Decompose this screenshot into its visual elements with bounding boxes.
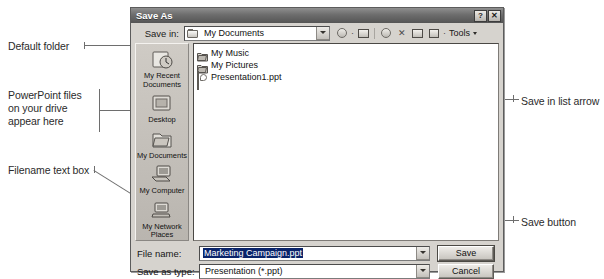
- save-in-row: Save in: My Documents · ✕ · Tools: [131, 23, 503, 43]
- file-name-label: My Music: [211, 48, 249, 58]
- annotation-powerpoint-files: PowerPoint files on your drive appear he…: [8, 89, 82, 128]
- chevron-down-icon[interactable]: [473, 32, 477, 35]
- place-item-my-computer[interactable]: My Computer: [136, 164, 188, 196]
- toolbar-dot-1: ·: [350, 28, 355, 38]
- list-item[interactable]: Presentation1.ppt: [197, 71, 498, 82]
- network-places-icon: [149, 200, 175, 222]
- place-label-network-places: My Network Places: [136, 223, 188, 240]
- my-documents-icon: [149, 129, 175, 151]
- place-item-recent[interactable]: My Recent Documents: [136, 49, 188, 89]
- save-button[interactable]: Save: [438, 246, 494, 261]
- annotation-leader-save-button-h: [505, 220, 519, 221]
- dialog-title-bar[interactable]: Save As ? ✕: [131, 8, 503, 23]
- place-label-my-documents: My Documents: [137, 152, 187, 161]
- list-item[interactable]: My Pictures: [197, 59, 498, 70]
- place-item-desktop[interactable]: Desktop: [136, 93, 188, 125]
- list-item[interactable]: My Music: [197, 47, 498, 58]
- save-in-dropdown[interactable]: My Documents: [184, 26, 330, 41]
- up-one-level-icon[interactable]: [356, 26, 371, 40]
- place-label-desktop: Desktop: [148, 116, 176, 125]
- save-as-type-value: Presentation (*.ppt): [200, 266, 416, 276]
- tools-menu-label[interactable]: Tools: [448, 28, 470, 38]
- recent-documents-icon: [149, 49, 175, 71]
- cancel-button[interactable]: Cancel: [438, 264, 494, 279]
- file-name-row: File name: Marketing Campaign.ppt Save: [135, 244, 499, 262]
- file-list[interactable]: My Music My Pictures Presentation1.ppt: [193, 43, 499, 241]
- save-in-value: My Documents: [201, 28, 316, 38]
- save-as-dialog: Save As ? ✕ Save in: My Documents · ✕ · …: [130, 7, 504, 272]
- save-as-type-row: Save as type: Presentation (*.ppt) Cance…: [135, 262, 499, 279]
- toolbar-separator-1: [374, 28, 375, 39]
- places-bar: My Recent Documents Desktop My Documents…: [135, 43, 189, 241]
- save-as-type-dropdown[interactable]: Presentation (*.ppt): [199, 264, 430, 279]
- annotation-filename-text-box: Filename text box: [8, 164, 89, 177]
- file-name-label-static: File name:: [135, 248, 199, 259]
- annotation-leader-save-in-arrow-h: [505, 99, 519, 100]
- toolbar-dot-2: ·: [442, 28, 447, 38]
- file-name-value: Marketing Campaign.ppt: [203, 248, 303, 258]
- place-item-my-documents[interactable]: My Documents: [136, 129, 188, 161]
- dialog-toolbar: · ✕ · Tools: [334, 26, 477, 40]
- place-label-recent: My Recent Documents: [136, 72, 188, 89]
- folder-icon: [187, 29, 198, 38]
- annotation-save-in-list-arrow: Save in list arrow: [521, 95, 599, 108]
- place-item-network-places[interactable]: My Network Places: [136, 200, 188, 240]
- search-web-icon[interactable]: [378, 26, 393, 40]
- close-button[interactable]: ✕: [488, 10, 501, 22]
- save-as-type-list-arrow[interactable]: [416, 265, 429, 278]
- dialog-title: Save As: [136, 10, 473, 21]
- back-icon[interactable]: [334, 26, 349, 40]
- file-name-label: Presentation1.ppt: [211, 72, 282, 82]
- folder-icon: [197, 60, 208, 70]
- desktop-icon: [149, 93, 175, 115]
- annotation-default-folder: Default folder: [8, 40, 69, 53]
- dialog-body: My Recent Documents Desktop My Documents…: [131, 43, 503, 241]
- folder-icon: [197, 48, 208, 58]
- help-button[interactable]: ?: [474, 10, 487, 22]
- views-icon[interactable]: [426, 26, 441, 40]
- delete-icon[interactable]: ✕: [394, 26, 409, 40]
- file-name-list-arrow[interactable]: [416, 247, 429, 260]
- annotation-save-button: Save button: [521, 216, 576, 229]
- save-in-list-arrow[interactable]: [316, 27, 329, 40]
- powerpoint-file-icon: [197, 72, 208, 82]
- save-as-type-label: Save as type:: [135, 266, 199, 277]
- new-folder-icon[interactable]: [410, 26, 425, 40]
- file-name-label: My Pictures: [211, 60, 258, 70]
- file-name-input[interactable]: Marketing Campaign.ppt: [199, 246, 430, 261]
- place-label-my-computer: My Computer: [139, 187, 184, 196]
- dialog-footer: File name: Marketing Campaign.ppt Save S…: [131, 241, 503, 279]
- my-computer-icon: [149, 164, 175, 186]
- save-in-label: Save in:: [135, 28, 179, 39]
